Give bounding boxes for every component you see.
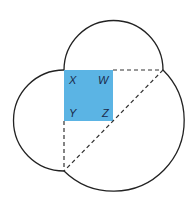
- top-arc: [64, 21, 163, 70]
- left-arc: [13, 70, 64, 171]
- geometry-diagram: X W Y Z: [0, 0, 192, 201]
- label-x: X: [68, 74, 77, 86]
- label-z: Z: [101, 107, 110, 119]
- label-y: Y: [69, 107, 77, 119]
- label-w: W: [98, 74, 110, 86]
